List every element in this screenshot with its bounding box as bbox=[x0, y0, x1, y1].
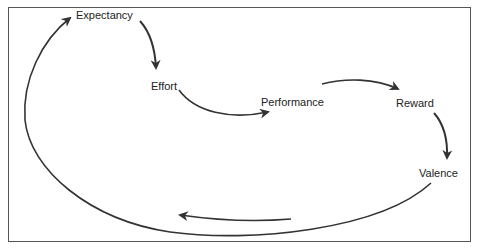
arc-valence-to-expectancy bbox=[25, 18, 431, 236]
arrow-effort-to-performance bbox=[179, 90, 268, 115]
arrow-bottom-return bbox=[180, 215, 291, 220]
node-valence: Valence bbox=[419, 168, 458, 179]
node-expectancy: Expectancy bbox=[76, 10, 133, 21]
arrow-expectancy-to-effort bbox=[140, 21, 156, 68]
arrow-reward-to-valence bbox=[434, 113, 447, 158]
node-performance: Performance bbox=[261, 97, 324, 108]
node-reward: Reward bbox=[396, 98, 434, 109]
node-effort: Effort bbox=[151, 81, 177, 92]
cycle-arrows bbox=[0, 0, 479, 249]
arrow-performance-to-reward bbox=[322, 80, 398, 89]
